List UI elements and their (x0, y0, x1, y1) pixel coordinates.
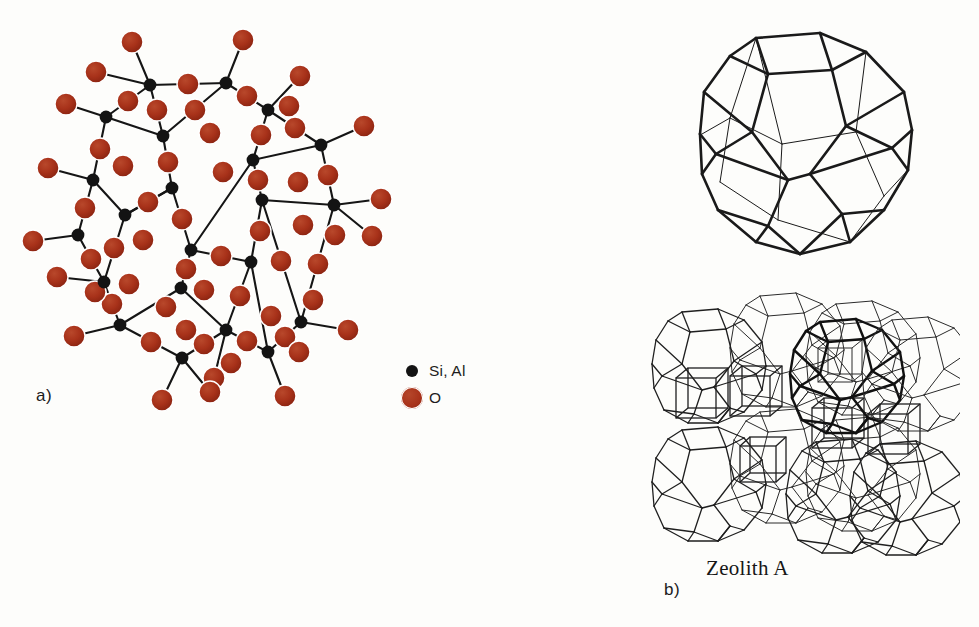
legend-item-si-al: Si, Al (398, 362, 466, 380)
si-al-dot-icon (406, 365, 418, 377)
zeolite-a-framework-wireframe (600, 288, 960, 558)
framework-highlighted-cage (790, 319, 904, 433)
figure-zeolite-a: a) Si, Al O (0, 0, 979, 627)
oxygen-circle-icon (401, 387, 423, 409)
figure-caption-zeolith-a: Zeolith A (706, 556, 789, 581)
panel-label-b: b) (664, 580, 680, 600)
legend: Si, Al O (398, 362, 538, 424)
panel-label-a: a) (36, 386, 52, 406)
legend-item-oxygen: O (398, 387, 441, 409)
truncated-octahedron-wireframe (660, 14, 950, 276)
panel-b-zeolite-a-framework (600, 288, 960, 558)
front-edges (700, 33, 912, 254)
panel-b-sodalite-cage (660, 14, 950, 276)
legend-label-si-al: Si, Al (429, 362, 466, 380)
legend-label-oxygen: O (429, 389, 441, 407)
framework-left-cages (652, 309, 786, 541)
oxygen-atoms (22, 29, 392, 411)
